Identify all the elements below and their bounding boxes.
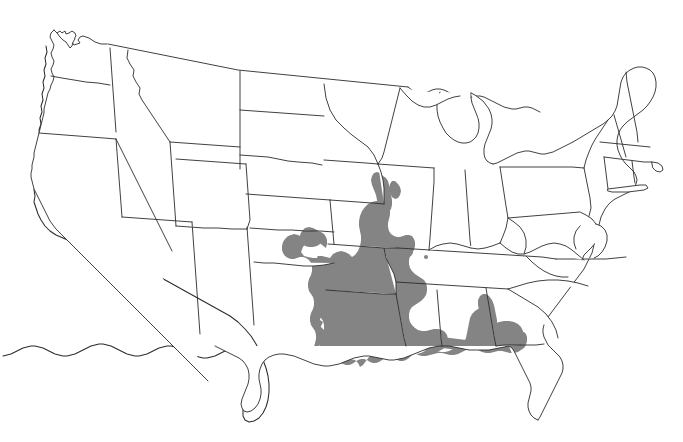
state-border-id-mt xyxy=(127,50,170,142)
state-border-nm-tx xyxy=(247,227,254,325)
state-border-ks-ok xyxy=(250,228,334,232)
state-border-in-oh xyxy=(465,170,471,248)
state-border-mn-wi xyxy=(324,84,378,164)
state-border-id-wa-or xyxy=(110,48,116,132)
state-border-co-ks xyxy=(246,164,250,229)
state-border-oh-pa-wv xyxy=(500,167,508,243)
range-shade-missouri-bootheel xyxy=(367,214,385,232)
canada-border-outline xyxy=(108,44,408,87)
cape-cod-outline xyxy=(652,162,663,172)
state-border-wi-mi xyxy=(378,88,400,164)
state-border-sc-nc xyxy=(508,280,588,289)
state-boundaries-layer xyxy=(3,30,663,422)
state-border-co-nm xyxy=(176,226,247,229)
us-map-svg xyxy=(0,0,683,442)
isolated-occurrence-dot xyxy=(424,255,428,259)
state-border-ne-ks xyxy=(246,194,330,200)
state-border-mo-ks-ok xyxy=(330,200,334,244)
state-border-mt-wy xyxy=(170,142,240,147)
state-border-mn-ia xyxy=(324,160,378,164)
florida-peninsula-outline xyxy=(509,346,538,420)
state-border-il-in xyxy=(429,168,434,250)
lake-erie-ontario-outline xyxy=(493,142,573,164)
state-border-ut-co xyxy=(170,142,176,226)
state-border-wi-il xyxy=(378,164,434,168)
range-shade-ozark-lobe xyxy=(300,227,322,247)
distribution-map-figure xyxy=(0,0,683,442)
state-border-sd-ne xyxy=(240,155,322,165)
state-border-co-wy xyxy=(176,159,246,164)
range-shading-layer xyxy=(282,172,527,367)
delmarva-outline xyxy=(594,224,607,258)
gulf-coast-outline xyxy=(215,346,509,412)
pacific-coast-outline xyxy=(31,30,208,381)
state-border-az-nm xyxy=(192,222,200,334)
state-border-ky-in-oh xyxy=(429,243,500,250)
state-border-nd-sd xyxy=(240,110,324,116)
